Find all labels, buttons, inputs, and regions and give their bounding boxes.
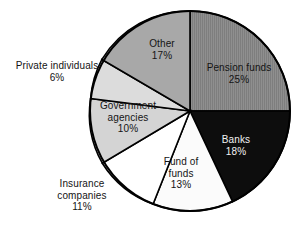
pie-label-private-individuals-value: 6%	[50, 72, 65, 83]
pie-label-private-individuals-text: Private individuals	[16, 60, 99, 71]
pie-label-insurance-companies-text: Insurance companies	[57, 178, 106, 201]
pie-label-private-individuals: Private individuals6%	[4, 60, 110, 83]
pie-chart-figure: Pension funds25% Banks18% Fund of funds1…	[0, 0, 300, 229]
pie-slice-pension-funds[interactable]	[190, 11, 290, 111]
pie-label-insurance-companies: Insurance companies11%	[41, 178, 123, 213]
pie-label-insurance-companies-value: 11%	[72, 201, 92, 212]
